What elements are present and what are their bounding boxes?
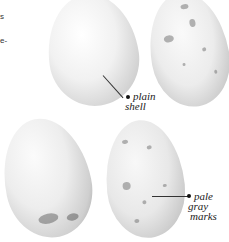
leader-line-pale-gray-marks: [152, 196, 188, 197]
label-plain-shell: plain shell: [133, 91, 156, 111]
egg-dark-base: [0, 110, 102, 242]
label-pale-gray-marks: pale gray marks: [194, 191, 217, 221]
pointer-dot: [126, 95, 130, 99]
margin-text-fragment: s: [0, 12, 4, 21]
pointer-dot: [187, 194, 191, 198]
margin-text-fragment: e-: [0, 36, 7, 45]
egg-pale-gray-marks: [100, 116, 190, 242]
